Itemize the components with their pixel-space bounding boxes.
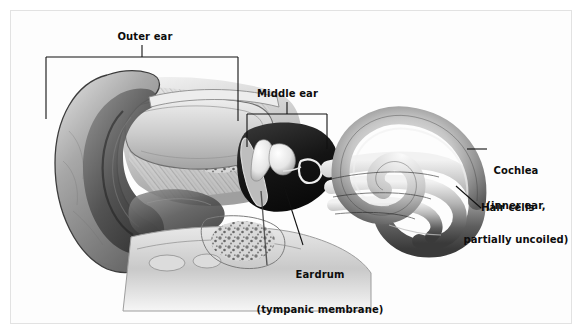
label-outer-ear: Outer ear	[105, 31, 185, 43]
label-eardrum-line2: (tympanic membrane)	[240, 304, 400, 316]
lower-vessel-a	[149, 255, 185, 271]
label-cochlea-line3: partially uncoiled)	[452, 234, 580, 246]
label-eardrum-line1: Eardrum	[240, 269, 400, 281]
label-middle-ear: Middle ear	[245, 88, 330, 100]
ear-anatomy-figure: Outer ear Middle ear Eardrum (tympanic m…	[0, 0, 583, 336]
label-hair-cells: Hair cells	[481, 202, 571, 214]
lower-vessel-b	[193, 254, 221, 268]
label-eardrum: Eardrum (tympanic membrane)	[240, 246, 400, 336]
label-cochlea-line1: Cochlea	[452, 165, 580, 177]
